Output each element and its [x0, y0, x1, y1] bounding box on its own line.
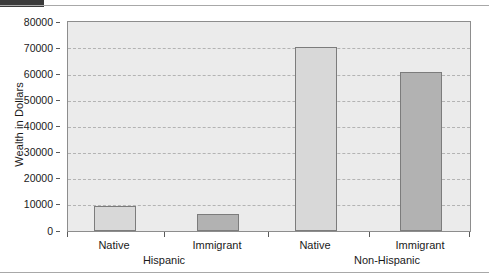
- y-tick-mark-icon: [56, 204, 60, 205]
- x-tick-mark-icon: [268, 232, 269, 237]
- y-tick-label: 20000: [24, 173, 53, 184]
- x-tick-mark-icon: [164, 232, 165, 237]
- y-tick-mark-icon: [56, 74, 60, 75]
- x-group-label-hispanic: Hispanic: [84, 253, 244, 267]
- y-tick-20000: 20000: [24, 173, 60, 185]
- x-tick-mark-icon: [67, 232, 68, 237]
- y-tick-label: 30000: [24, 147, 53, 158]
- y-tick-mark-icon: [56, 126, 60, 127]
- y-tick-mark-icon: [56, 22, 60, 23]
- top-divider-rule: [0, 5, 489, 6]
- y-tick-70000: 70000: [24, 42, 60, 54]
- bar-hispanic-immigrant[interactable]: [197, 214, 239, 231]
- y-tick-mark-icon: [56, 100, 60, 101]
- bar-non-hispanic-native[interactable]: [295, 47, 337, 231]
- y-tick-50000: 50000: [24, 94, 60, 106]
- y-axis-tick-labels: 80000 70000 60000 50000 40000 30000 2000…: [8, 7, 60, 271]
- bar-non-hispanic-immigrant[interactable]: [400, 72, 442, 231]
- x-label-hispanic-immigrant: Immigrant: [162, 238, 272, 252]
- y-tick-mark-icon: [56, 48, 60, 49]
- y-tick-mark-icon: [56, 178, 60, 179]
- bar-chart-figure: Wealth in Dollars 80000 70000 60000 5000…: [0, 7, 489, 271]
- y-tick-label: 10000: [24, 199, 53, 210]
- y-tick-80000: 80000: [24, 16, 60, 28]
- bottom-divider-rule: [0, 272, 489, 273]
- bars-layer: [68, 22, 470, 231]
- y-tick-40000: 40000: [24, 121, 60, 133]
- y-tick-mark-icon: [56, 231, 60, 232]
- x-label-non-hispanic-native: Native: [260, 238, 370, 252]
- x-label-non-hispanic-immigrant: Immigrant: [365, 238, 475, 252]
- plot-area: [67, 21, 471, 232]
- y-tick-label: 50000: [24, 95, 53, 106]
- x-tick-mark-icon: [469, 232, 470, 237]
- y-tick-mark-icon: [56, 152, 60, 153]
- y-tick-10000: 10000: [24, 199, 60, 211]
- y-tick-0: 0: [47, 225, 60, 237]
- y-tick-label: 70000: [24, 43, 53, 54]
- y-tick-label: 80000: [24, 17, 53, 28]
- bar-hispanic-native[interactable]: [94, 206, 136, 231]
- x-label-hispanic-native: Native: [59, 238, 169, 252]
- y-tick-60000: 60000: [24, 68, 60, 80]
- y-tick-label: 60000: [24, 69, 53, 80]
- x-group-label-non-hispanic: Non-Hispanic: [307, 253, 467, 267]
- y-tick-30000: 30000: [24, 147, 60, 159]
- x-tick-mark-icon: [369, 232, 370, 237]
- x-axis-category-labels: Native Immigrant Native Immigrant: [67, 238, 471, 254]
- y-tick-label: 0: [47, 226, 53, 237]
- x-axis-group-labels: Hispanic Non-Hispanic: [67, 253, 471, 269]
- y-tick-label: 40000: [24, 121, 53, 132]
